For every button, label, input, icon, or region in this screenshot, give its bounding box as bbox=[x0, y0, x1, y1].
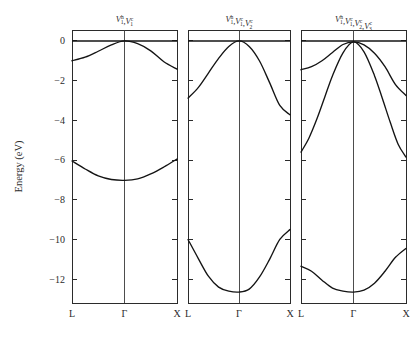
x-tick-label-X: X bbox=[402, 308, 410, 319]
x-tick-label-Γ: Γ bbox=[236, 308, 242, 319]
band-structure-figure: 0−2−4−6−8−10−12LΓXVh1,Vc1LΓXVh1,Vc1,Vc2L… bbox=[0, 0, 420, 342]
y-axis-title: Energy (eV) bbox=[13, 140, 25, 192]
y-tick-label: −2 bbox=[54, 75, 65, 86]
x-tick-label-L: L bbox=[298, 308, 304, 319]
x-tick-label-L: L bbox=[185, 308, 191, 319]
x-tick-label-Γ: Γ bbox=[351, 308, 357, 319]
x-tick-label-X: X bbox=[286, 308, 294, 319]
x-tick-label-Γ: Γ bbox=[122, 308, 128, 319]
x-tick-label-X: X bbox=[173, 308, 181, 319]
y-tick-label: −10 bbox=[49, 234, 65, 245]
y-tick-label: −8 bbox=[54, 194, 65, 205]
figure-background bbox=[0, 0, 420, 342]
y-tick-label: −6 bbox=[54, 154, 65, 165]
y-tick-label: −12 bbox=[49, 274, 65, 285]
y-tick-label: −4 bbox=[54, 115, 65, 126]
x-tick-label-L: L bbox=[69, 308, 75, 319]
y-tick-label: 0 bbox=[60, 35, 65, 46]
